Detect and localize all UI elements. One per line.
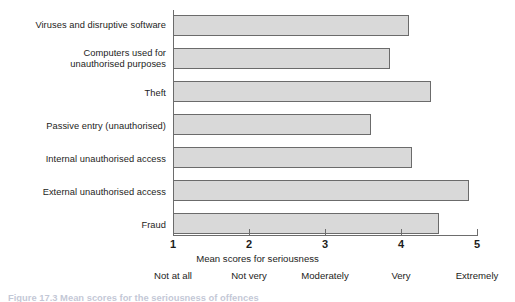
category-label-theft: Theft — [145, 88, 166, 99]
category-axis-labels: Viruses and disruptive software Computer… — [0, 0, 170, 232]
x-axis-title: Mean scores for seriousness — [0, 253, 515, 264]
scale-anchor-very: Very — [391, 270, 410, 281]
x-tick-3 — [325, 229, 326, 236]
bar-theft — [173, 81, 431, 102]
category-label-viruses: Viruses and disruptive software — [35, 20, 166, 31]
x-tick-5 — [477, 229, 478, 236]
category-label-internal-access: Internal unauthorised access — [46, 154, 166, 165]
figure-caption: Figure 17.3 Mean scores for the seriousn… — [8, 292, 468, 302]
x-tick-label-3: 3 — [322, 238, 328, 250]
category-label-computers-misuse: Computers used for unauthorised purposes — [70, 48, 166, 70]
category-label-external-access: External unauthorised access — [43, 187, 166, 198]
bar-external-access — [173, 180, 469, 201]
category-label-fraud: Fraud — [141, 220, 166, 231]
bar-fraud — [173, 213, 439, 234]
scale-anchor-labels: Not at allNot veryModeratelyVeryExtremel… — [0, 270, 515, 284]
scale-anchor-extremely: Extremely — [456, 270, 499, 281]
x-tick-label-1: 1 — [170, 238, 176, 250]
scale-anchor-not-at-all: Not at all — [154, 270, 192, 281]
bar-viruses — [173, 15, 409, 36]
x-tick-label-5: 5 — [474, 238, 480, 250]
bar-computers-misuse — [173, 48, 390, 69]
scale-anchor-not-very: Not very — [231, 270, 267, 281]
bar-chart-figure: Viruses and disruptive software Computer… — [0, 0, 515, 302]
x-tick-label-4: 4 — [398, 238, 404, 250]
bar-internal-access — [173, 147, 412, 168]
x-tick-1 — [173, 229, 174, 236]
bar-passive-entry — [173, 114, 371, 135]
scale-anchor-moderately: Moderately — [301, 270, 348, 281]
x-tick-4 — [401, 229, 402, 236]
plot-area — [173, 10, 483, 235]
x-tick-label-2: 2 — [246, 238, 252, 250]
category-label-passive-entry: Passive entry (unauthorised) — [46, 121, 166, 132]
x-tick-2 — [249, 229, 250, 236]
